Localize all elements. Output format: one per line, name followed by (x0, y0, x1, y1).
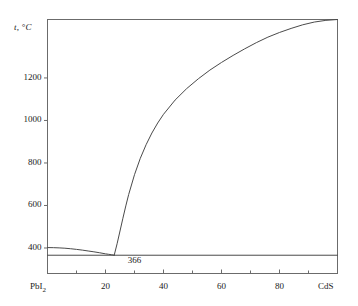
endmember-left-subscript: 2 (43, 286, 47, 294)
y-tick-label: 800 (0, 157, 42, 167)
y-tick-label: 400 (0, 242, 42, 252)
eutectic-temperature-annotation: 366 (115, 255, 155, 265)
y-tick-label: 600 (0, 199, 42, 209)
plot-frame (48, 20, 338, 274)
x-axis-endmember-right: CdS (318, 281, 334, 291)
x-axis-endmember-left: PbI2 (30, 281, 46, 294)
axis-ticks (44, 78, 338, 274)
y-tick-label: 1200 (0, 72, 42, 82)
phase-diagram-plot (0, 0, 358, 306)
y-tick-label: 1000 (0, 114, 42, 124)
right-liquidus (114, 20, 337, 256)
y-axis-label: t, °C (14, 22, 32, 32)
x-tick-label: 60 (202, 281, 242, 291)
x-tick-label: 80 (260, 281, 300, 291)
endmember-left-formula: PbI (30, 281, 43, 291)
phase-diagram-figure: t, °C 40060080010001200 20406080 PbI2 Cd… (0, 0, 358, 306)
liquidus-curves (48, 20, 338, 256)
x-tick-label: 20 (86, 281, 126, 291)
left-liquidus (48, 248, 115, 256)
x-tick-label: 40 (144, 281, 184, 291)
